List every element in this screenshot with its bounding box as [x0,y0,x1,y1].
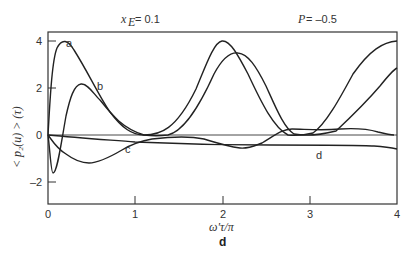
svg-text:P: P [297,12,306,26]
svg-text:= –0.5: = –0.5 [306,13,337,25]
curve-d [48,135,397,149]
xtick-3: 3 [307,208,313,220]
ytick-4: 4 [36,35,42,47]
xtick-0: 0 [45,208,51,220]
curve-b [48,53,397,173]
ytick-2: 2 [36,82,42,94]
x-axis-label: ω'τ/π [209,220,235,234]
xtick-2: 2 [220,208,226,220]
panel-label: d [219,235,226,249]
x-ticks [135,196,310,204]
svg-text:x: x [120,12,127,26]
y-axis-label: < p₂(u) > (τ) [10,106,24,168]
curve-label-d: d [316,149,322,161]
chart-canvas: 4 2 0 –2 0 1 2 3 4 ω'τ/π d < p₂(u) > (τ)… [0,0,414,258]
plot-frame [48,32,397,204]
xtick-4: 4 [394,208,400,220]
xtick-1: 1 [132,208,138,220]
ytick-minus2: –2 [30,176,42,188]
svg-text:= 0.1: = 0.1 [135,13,160,25]
annotation-p: P = –0.5 [297,12,337,26]
annotation-xe: x E = 0.1 [120,12,160,29]
curve-label-a: a [66,37,73,49]
curve-label-b: b [97,80,103,92]
ytick-0: 0 [36,129,42,141]
curve-label-c: c [125,143,131,155]
